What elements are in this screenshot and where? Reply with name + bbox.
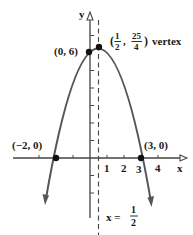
point-neg2-0 — [53, 155, 59, 161]
svg-text:25: 25 — [132, 31, 142, 41]
label-neg2-0: (−2, 0) — [12, 139, 42, 152]
x-tick-label-3: 3 — [136, 163, 142, 175]
label-0-6: (0, 6) — [54, 45, 78, 58]
y-axis-label: y — [79, 8, 85, 20]
svg-text:1: 1 — [131, 204, 136, 215]
vertex-label: ( 1 2 , 25 4 ) vertex — [110, 31, 182, 52]
x-tick-label-2: 2 — [121, 162, 127, 174]
left-arrowhead-icon — [43, 194, 50, 205]
parabola-chart: x 1 2 3 4 y (−2, 0) (3, 0) (0, 6) ( 1 2 — [0, 0, 193, 235]
x-axis-arrow-icon — [180, 155, 187, 161]
svg-text:1: 1 — [115, 31, 120, 41]
svg-text:2: 2 — [115, 42, 120, 52]
x-tick-label-1: 1 — [104, 162, 110, 174]
x-axis-label: x — [177, 162, 183, 174]
svg-text:2: 2 — [131, 217, 136, 228]
svg-text:4: 4 — [134, 42, 139, 52]
symmetry-label: x = 1 2 — [106, 204, 138, 228]
vertex-word: vertex — [152, 35, 182, 47]
y-axis: y — [79, 8, 94, 218]
svg-text:x =: x = — [106, 211, 121, 223]
right-arrowhead-icon — [148, 196, 155, 207]
x-axis: x 1 2 3 4 — [13, 155, 187, 175]
svg-text:): ) — [144, 34, 148, 48]
point-vertex — [96, 44, 102, 50]
svg-text:,: , — [123, 35, 126, 47]
point-0-6 — [86, 49, 92, 55]
point-3-0 — [138, 155, 144, 161]
svg-text:(: ( — [110, 34, 114, 48]
x-tick-label-4: 4 — [155, 162, 161, 174]
y-axis-arrow-icon — [87, 12, 93, 20]
label-3-0: (3, 0) — [144, 139, 168, 152]
